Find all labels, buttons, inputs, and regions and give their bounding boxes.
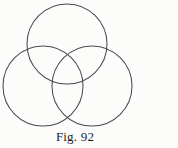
- top-circle: [27, 4, 107, 84]
- figure-caption: Fig. 92: [0, 130, 150, 144]
- right-circle: [52, 46, 132, 126]
- left-circle: [3, 46, 83, 126]
- figure-page: Fig. 92: [0, 0, 178, 148]
- venn-diagram: [0, 0, 178, 148]
